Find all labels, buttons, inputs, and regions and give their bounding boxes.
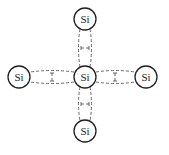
electron-tick-right (86, 46, 89, 50)
atom-right: Si (135, 66, 157, 88)
atom-label: Si (80, 13, 89, 25)
atom-label: Si (141, 71, 150, 83)
bond-dashed-line-left (79, 29, 81, 67)
electron-tick-bottom (50, 78, 54, 81)
bond-dashed-line-right (90, 87, 92, 121)
bond-center-top (79, 29, 92, 67)
bond-dashed-line-right (90, 29, 92, 67)
atom-top: Si (74, 8, 96, 30)
atom-label: Si (80, 71, 89, 83)
electron-tick-left (81, 46, 84, 50)
electron-tick-left (81, 102, 84, 106)
atom-label: Si (80, 125, 89, 137)
electron-tick-top (113, 73, 117, 76)
electron-tick-right (86, 102, 89, 106)
bond-dashed-line-bottom (96, 82, 135, 84)
atom-bottom: Si (74, 120, 96, 142)
atom-left: Si (8, 66, 30, 88)
electron-tick-top (50, 73, 54, 76)
electron-tick-bottom (113, 78, 117, 81)
bond-dashed-line-bottom (30, 82, 74, 84)
bond-center-bottom (79, 87, 92, 121)
silicon-bonding-diagram: Si Si Si Si Si (0, 0, 169, 155)
atom-center: Si (74, 66, 96, 88)
bond-dashed-line-top (30, 71, 74, 73)
bond-dashed-line-left (79, 87, 81, 121)
atom-label: Si (14, 71, 23, 83)
bond-center-left (30, 71, 74, 84)
bond-center-right (96, 71, 135, 84)
bond-dashed-line-top (96, 71, 135, 73)
